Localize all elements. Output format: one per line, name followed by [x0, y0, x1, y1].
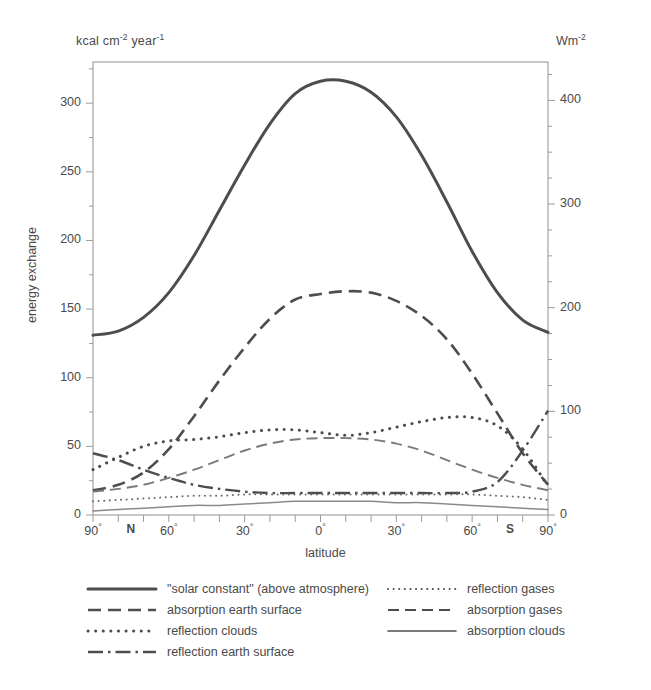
chart-legend: "solar constant" (above atmosphere)absor…: [86, 578, 626, 670]
legend-line-swatch: [86, 646, 158, 658]
legend-item: "solar constant" (above atmosphere): [86, 578, 386, 599]
legend-line-swatch: [386, 583, 458, 595]
legend-line-swatch: [86, 604, 158, 616]
legend-item: absorption gases: [386, 599, 636, 620]
legend-item: reflection clouds: [86, 620, 386, 641]
legend-item-label: absorption clouds: [467, 624, 565, 638]
legend-item-label: "solar constant" (above atmosphere): [167, 582, 369, 596]
legend-line-swatch: [86, 625, 158, 637]
legend-column-left: "solar constant" (above atmosphere)absor…: [86, 578, 386, 662]
series-line-2: [93, 417, 548, 486]
series-line-5: [93, 438, 548, 492]
legend-line-swatch: [386, 625, 458, 637]
series-line-4: [93, 494, 548, 501]
legend-line-swatch: [86, 583, 158, 595]
series-line-1: [93, 291, 548, 490]
legend-item-label: reflection clouds: [167, 624, 257, 638]
legend-item: absorption earth surface: [86, 599, 386, 620]
legend-item-label: reflection gases: [467, 582, 555, 596]
legend-line-swatch: [386, 604, 458, 616]
legend-column-right: reflection gasesabsorption gasesabsorpti…: [386, 578, 636, 641]
legend-item-label: absorption earth surface: [167, 603, 302, 617]
legend-item: absorption clouds: [386, 620, 636, 641]
series-line-6: [93, 501, 548, 511]
legend-item-label: absorption gases: [467, 603, 562, 617]
legend-item: reflection earth surface: [86, 641, 386, 662]
legend-item: reflection gases: [386, 578, 636, 599]
energy-exchange-chart: kcal cm-2 year-1 Wm-2 energy exchange la…: [0, 0, 651, 690]
legend-item-label: reflection earth surface: [167, 645, 294, 659]
series-line-0: [93, 80, 548, 335]
